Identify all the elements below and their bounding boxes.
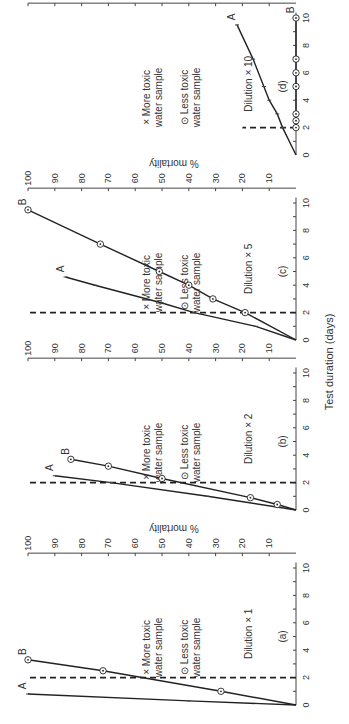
x-tick-label: 2 bbox=[301, 310, 311, 315]
y-tick-label: 30 bbox=[211, 538, 221, 548]
x-tick-label: 4 bbox=[301, 283, 311, 288]
panel-label: (b) bbox=[277, 435, 288, 447]
legend-text: water sample bbox=[153, 617, 164, 678]
circle-dot-center bbox=[276, 504, 278, 506]
y-tick-label: 70 bbox=[103, 538, 113, 548]
series-end-label: B bbox=[60, 448, 71, 455]
series-end-label: B bbox=[17, 198, 28, 205]
x-tick-label: 0 bbox=[301, 507, 311, 512]
y-tick-label: 30 bbox=[211, 343, 221, 353]
y-tick-label: 90 bbox=[50, 173, 60, 183]
circle-dot-center bbox=[295, 86, 297, 88]
circle-dot-center bbox=[27, 659, 29, 661]
circle-dot-center bbox=[295, 127, 297, 129]
circle-dot-center bbox=[188, 284, 190, 286]
panel-c: 102030405060708090100% mortality0246810(… bbox=[17, 158, 311, 342]
x-tick-label: 10 bbox=[301, 368, 311, 378]
y-tick-label: 40 bbox=[184, 538, 194, 548]
x-tick-label: 0 bbox=[301, 152, 311, 157]
circle-dot-center bbox=[102, 670, 104, 672]
legend-text: ⊙ Less toxic bbox=[179, 620, 190, 675]
x-tick-label: 0 bbox=[301, 337, 311, 342]
x-tick-label: 4 bbox=[301, 98, 311, 103]
legend-text: water sample bbox=[191, 422, 202, 483]
y-tick-label: 60 bbox=[130, 343, 140, 353]
circle-dot-center bbox=[212, 298, 214, 300]
x-tick-label: 8 bbox=[301, 593, 311, 598]
series-end-label: B bbox=[285, 6, 296, 13]
panel-label: (c) bbox=[277, 266, 288, 278]
x-tick-label: 2 bbox=[301, 675, 311, 680]
series-end-label: B bbox=[17, 648, 28, 655]
x-tick-label: 4 bbox=[301, 453, 311, 458]
circle-dot-center bbox=[161, 478, 163, 480]
circle-dot-center bbox=[27, 209, 29, 211]
dilution-label: Dilution × 1 bbox=[243, 608, 254, 659]
y-tick-label: 20 bbox=[237, 538, 247, 548]
series-A bbox=[28, 694, 296, 705]
x-tick-label: 10 bbox=[301, 198, 311, 208]
panel-d: 102030405060708090100% mortality0246810(… bbox=[23, 0, 311, 158]
y-tick-label: 40 bbox=[184, 343, 194, 353]
y-tick-label: 80 bbox=[77, 538, 87, 548]
panel-b: 1020304050607080901000246810(b)Dilution … bbox=[23, 341, 311, 513]
dilution-label: Dilution × 5 bbox=[243, 243, 254, 294]
y-tick-label: 10 bbox=[264, 538, 274, 548]
x-tick-label: 8 bbox=[301, 398, 311, 403]
y-tick-label: 100 bbox=[23, 341, 33, 356]
circle-dot-center bbox=[220, 690, 222, 692]
y-tick-label: 100 bbox=[23, 171, 33, 186]
x-tick-label: 2 bbox=[301, 480, 311, 485]
circle-dot-center bbox=[295, 58, 297, 60]
legend-text: × More toxic bbox=[141, 425, 152, 480]
y-tick-label: 60 bbox=[130, 173, 140, 183]
legend-text: water sample bbox=[153, 67, 164, 128]
series-end-label: A bbox=[44, 464, 55, 471]
circle-dot-center bbox=[99, 243, 101, 245]
circle-dot-center bbox=[295, 120, 297, 122]
x-tick-label: 2 bbox=[301, 125, 311, 130]
circle-dot-center bbox=[70, 458, 72, 460]
y-tick-label: 90 bbox=[50, 538, 60, 548]
y-tick-label: 50 bbox=[157, 343, 167, 353]
panel-a: 102030405060708090100% mortality0246810(… bbox=[17, 523, 311, 707]
circle-dot-center bbox=[108, 465, 110, 467]
series-end-label: A bbox=[17, 682, 28, 689]
y-tick-label: 90 bbox=[50, 343, 60, 353]
circle-dot-center bbox=[244, 312, 246, 314]
x-tick-label: 6 bbox=[301, 620, 311, 625]
legend-text: ⊙ Less toxic bbox=[179, 425, 190, 480]
x-tick-label: 8 bbox=[301, 43, 311, 48]
series-end-label: A bbox=[226, 13, 237, 20]
y-tick-label: 80 bbox=[77, 343, 87, 353]
legend-text: × More toxic bbox=[141, 620, 152, 675]
legend-text: ⊙ Less toxic bbox=[179, 70, 190, 125]
circle-dot-center bbox=[295, 17, 297, 19]
legend-text: water sample bbox=[191, 67, 202, 128]
x-tick-label: 10 bbox=[301, 13, 311, 23]
x-tick-label: 8 bbox=[301, 228, 311, 233]
x-tick-label: 0 bbox=[301, 702, 311, 707]
x-tick-label: 10 bbox=[301, 563, 311, 573]
y-tick-label: 20 bbox=[237, 343, 247, 353]
x-tick-label: 6 bbox=[301, 425, 311, 430]
y-tick-label: 40 bbox=[184, 173, 194, 183]
y-tick-label: 80 bbox=[77, 173, 87, 183]
y-tick-label: 10 bbox=[264, 173, 274, 183]
shared-x-axis-label: Test duration (days) bbox=[323, 314, 335, 411]
legend-text: water sample bbox=[153, 252, 164, 313]
series-end-label: A bbox=[55, 265, 66, 272]
y-tick-label: 70 bbox=[103, 343, 113, 353]
y-tick-label: 70 bbox=[103, 173, 113, 183]
circle-dot-center bbox=[295, 113, 297, 115]
y-axis-label: % mortality bbox=[149, 523, 198, 534]
legend-text: × More toxic bbox=[141, 70, 152, 125]
y-tick-label: 100 bbox=[23, 0, 33, 1]
x-tick-label: 6 bbox=[301, 255, 311, 260]
x-tick-label: 6 bbox=[301, 70, 311, 75]
dilution-label: Dilution × 2 bbox=[243, 413, 254, 464]
y-tick-label: 20 bbox=[237, 173, 247, 183]
x-tick-label: 4 bbox=[301, 648, 311, 653]
legend-text: water sample bbox=[191, 617, 202, 678]
y-tick-label: 50 bbox=[157, 173, 167, 183]
